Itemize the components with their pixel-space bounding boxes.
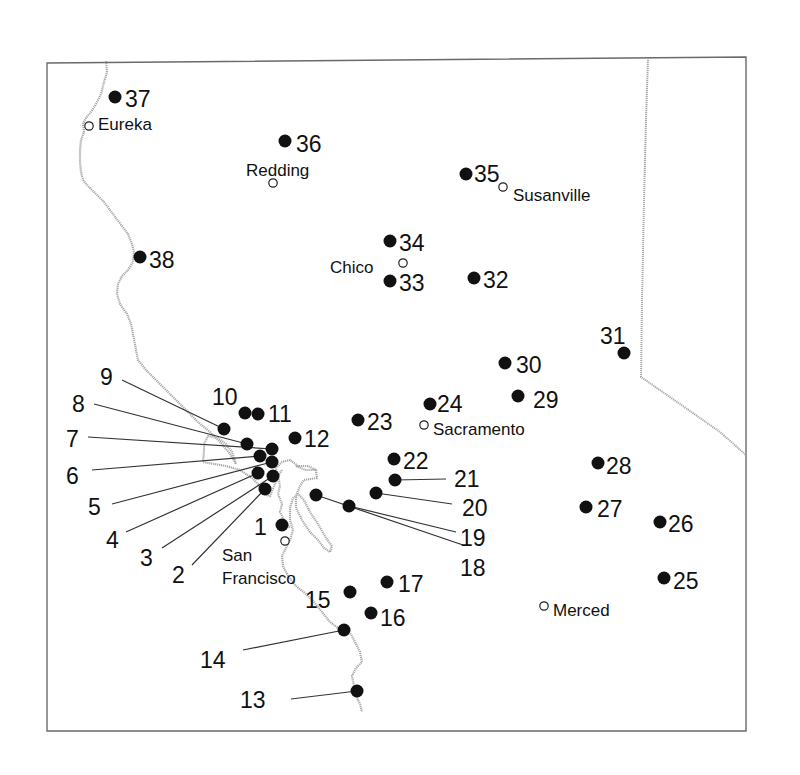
site-dot-icon[interactable] [252, 467, 265, 480]
site-dot-icon[interactable] [384, 275, 397, 288]
leader-line-14 [243, 630, 344, 650]
site-22[interactable]: 22 [388, 448, 429, 474]
site-label: 11 [268, 401, 292, 427]
site-38[interactable]: 38 [134, 247, 175, 273]
site-11[interactable]: 11 [252, 401, 292, 427]
site-dot-icon[interactable] [241, 438, 254, 451]
site-dot-icon[interactable] [388, 453, 401, 466]
site-label: 37 [125, 86, 151, 112]
site-dot-icon[interactable] [424, 398, 437, 411]
site-dot-icon[interactable] [279, 135, 292, 148]
site-dot-icon[interactable] [370, 487, 383, 500]
city-san: San [222, 546, 252, 565]
state-border [641, 58, 746, 455]
leader-line-5 [112, 462, 272, 504]
leader-line-20 [376, 493, 452, 504]
city-dot-icon [399, 259, 407, 267]
site-dot-icon[interactable] [134, 251, 147, 264]
site-10[interactable]: 10 [212, 384, 252, 420]
city-francisco: Francisco [222, 569, 296, 588]
city-label: Francisco [222, 569, 296, 588]
site-28[interactable]: 28 [592, 453, 632, 479]
site-dot-icon[interactable] [460, 168, 473, 181]
site-dot-icon[interactable] [352, 414, 365, 427]
site-label: 14 [200, 647, 226, 673]
site-dot-icon[interactable] [344, 586, 357, 599]
site-33[interactable]: 33 [384, 270, 425, 296]
site-36[interactable]: 36 [279, 131, 322, 157]
site-14[interactable]: 14 [200, 624, 351, 674]
site-dot-icon[interactable] [512, 390, 525, 403]
site-25[interactable]: 25 [658, 568, 699, 594]
city-merced: Merced [540, 601, 610, 620]
site-37[interactable]: 37 [109, 86, 151, 112]
site-dot-icon[interactable] [267, 470, 280, 483]
site-27[interactable]: 27 [580, 496, 623, 522]
site-26[interactable]: 26 [654, 511, 694, 537]
site-label: 2 [172, 562, 185, 588]
site-dot-icon[interactable] [499, 357, 512, 370]
site-dot-icon[interactable] [381, 576, 394, 589]
site-label: 19 [460, 525, 486, 551]
site-35[interactable]: 35 [460, 161, 500, 187]
leader-line-13 [291, 691, 357, 699]
site-34[interactable]: 34 [384, 230, 425, 256]
site-label: 20 [462, 495, 488, 521]
city-label: Merced [553, 601, 610, 620]
site-label: 15 [305, 587, 331, 613]
site-5[interactable]: 5 [88, 456, 279, 521]
site-dot-icon[interactable] [468, 272, 481, 285]
city-dot-icon [420, 421, 428, 429]
site-23[interactable]: 23 [352, 409, 393, 435]
site-29[interactable]: 29 [512, 387, 559, 413]
site-dot-icon[interactable] [351, 685, 364, 698]
site-label: 10 [212, 384, 238, 410]
site-label: 12 [304, 426, 330, 452]
site-15[interactable]: 15 [305, 586, 357, 614]
site-location-map: 1234567891011121314151617181920212223242… [0, 0, 800, 775]
site-label: 36 [296, 131, 322, 157]
site-dot-icon[interactable] [365, 607, 378, 620]
site-label: 30 [516, 352, 542, 378]
site-dot-icon[interactable] [580, 501, 593, 514]
site-dot-icon[interactable] [289, 432, 302, 445]
city-sacramento: Sacramento [420, 420, 525, 439]
city-dot-icon [85, 122, 93, 130]
site-dot-icon[interactable] [276, 519, 289, 532]
site-dot-icon[interactable] [654, 516, 667, 529]
site-label: 35 [474, 161, 500, 187]
city-susanville: Susanville [499, 183, 591, 206]
site-dot-icon[interactable] [266, 443, 279, 456]
site-dot-icon[interactable] [218, 423, 231, 436]
site-12[interactable]: 12 [289, 426, 330, 452]
site-dot-icon[interactable] [310, 489, 323, 502]
site-9[interactable]: 9 [100, 364, 231, 436]
site-dot-icon[interactable] [384, 235, 397, 248]
site-dot-icon[interactable] [338, 624, 351, 637]
site-dot-icon[interactable] [252, 408, 265, 421]
site-dot-icon[interactable] [259, 483, 272, 496]
site-label: 17 [398, 571, 424, 597]
leader-line-21 [395, 479, 446, 480]
site-dot-icon[interactable] [658, 572, 671, 585]
site-label: 24 [437, 391, 463, 417]
city-eureka: Eureka [85, 115, 153, 134]
site-dot-icon[interactable] [592, 457, 605, 470]
site-dot-icon[interactable] [239, 407, 252, 420]
site-dot-icon[interactable] [266, 456, 279, 469]
site-dot-icon[interactable] [109, 91, 122, 104]
site-dot-icon[interactable] [254, 450, 267, 463]
site-17[interactable]: 17 [381, 571, 424, 597]
site-30[interactable]: 30 [499, 352, 542, 378]
site-label: 21 [454, 466, 480, 492]
site-label: 33 [399, 270, 425, 296]
site-16[interactable]: 16 [365, 605, 406, 631]
site-31[interactable]: 31 [600, 323, 631, 360]
site-13[interactable]: 13 [240, 685, 364, 714]
site-4[interactable]: 4 [106, 467, 265, 554]
site-1[interactable]: 1 [254, 514, 289, 540]
site-dot-icon[interactable] [343, 500, 356, 513]
site-32[interactable]: 32 [468, 267, 509, 293]
site-24[interactable]: 24 [424, 391, 463, 417]
site-dot-icon[interactable] [389, 474, 402, 487]
